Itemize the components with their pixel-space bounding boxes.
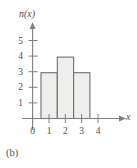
x-axis-arrow-icon (119, 116, 126, 122)
bar-2 (57, 57, 73, 118)
bar-3 (74, 73, 90, 119)
x-tick-label-0: 0 (27, 127, 39, 137)
y-tick-label-5: 5 (13, 37, 23, 47)
y-tick-label-1: 1 (13, 99, 23, 109)
y-tick-label-4: 4 (13, 52, 23, 62)
y-tick-label-2: 2 (13, 83, 23, 93)
x-tick-label-2: 2 (59, 127, 71, 137)
bar-series (41, 57, 90, 118)
x-tick-label-1: 1 (43, 127, 55, 137)
figure-caption: (b) (6, 148, 18, 159)
x-tick-label-3: 3 (76, 127, 88, 137)
y-axis-arrow-icon (30, 22, 36, 29)
figure-panel-b: n(x) x 5 4 3 2 1 0 1 2 3 4 (b) (0, 0, 137, 168)
y-axis (30, 22, 36, 130)
x-axis-label: x (126, 112, 130, 122)
y-axis-label: n(x) (19, 9, 35, 19)
bar-1 (41, 73, 57, 119)
y-tick-label-3: 3 (13, 68, 23, 78)
x-tick-label-4: 4 (92, 127, 104, 137)
